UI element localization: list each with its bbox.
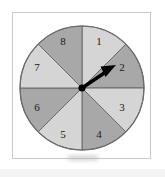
sector-label-8: 8: [60, 35, 66, 47]
spinner-hub[interactable]: [78, 84, 85, 91]
sector-label-6: 6: [34, 101, 40, 113]
sector-label-3: 3: [119, 101, 125, 113]
sector-label-5: 5: [60, 128, 66, 140]
spinner-figure-page: 1 2 3 4 5 6 7 8: [0, 0, 165, 177]
bottom-band: [0, 169, 165, 177]
spinner-wheel[interactable]: 1 2 3 4 5 6 7 8: [0, 0, 165, 177]
sector-label-1: 1: [96, 35, 102, 47]
frame-shadow-smudge: [68, 156, 98, 160]
spinner-svg: 1 2 3 4 5 6 7 8: [0, 0, 165, 177]
sector-label-2: 2: [119, 61, 125, 73]
sector-label-4: 4: [96, 128, 102, 140]
sector-label-7: 7: [34, 61, 40, 73]
